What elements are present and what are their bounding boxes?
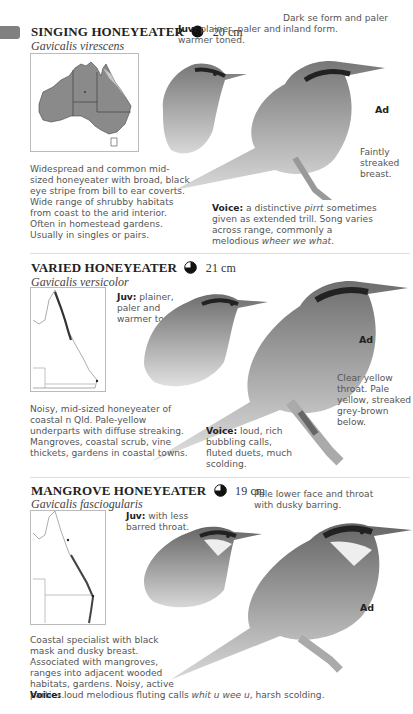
juv-label: Juv: [178,24,197,34]
voice-text: a distinctive [246,203,304,213]
voice-song: wheer we what [262,236,331,246]
scientific-name: Gavicalis virescens [31,39,124,54]
common-name: SINGING HONEYEATER [31,24,184,39]
voice-text: . [331,236,334,246]
distribution-map-queensland [30,510,106,625]
voice-note: Voice: a distinctive pirrt sometimes giv… [212,203,382,247]
juv-label: Juv: [117,292,136,302]
common-name: MANGROVE HONEYEATER [31,483,206,498]
queensland-map-icon [31,511,105,624]
voice-call: pirrt [304,203,323,213]
section-divider [30,477,410,478]
adult-label: Ad [375,104,389,115]
voice-text: , harsh scolding. [250,690,325,700]
voice-note: Voice: loud melodious fluting calls whit… [30,690,320,701]
voice-note: Voice: loud, rich bubbling calls, fluted… [206,426,296,470]
page-tab-marker [0,26,20,39]
voice-label: Voice: [206,426,237,436]
form-note: Dark se form and paler inland form. [283,13,403,35]
face-note: Pale lower face and throat with dusky ba… [254,489,394,511]
distribution-map-queensland [30,287,106,392]
voice-label: Voice: [212,203,243,213]
adult-label: Ad [359,334,373,345]
throat-note: Clear yellow throat. Pale yellow, streak… [337,373,413,428]
adult-label: Ad [360,602,374,613]
australia-map-icon [31,54,138,151]
breast-note: Faintly streaked breast. [360,147,410,180]
voice-label: Voice: [30,690,61,700]
species-description: Widespread and common mid-sized honeyeat… [30,164,190,241]
species-description: Noisy, mid-sized honeyeater of coastal n… [30,404,190,459]
distribution-map-australia [30,53,139,152]
voice-text: loud melodious fluting calls [64,690,192,700]
voice-call: whit u wee u [192,690,250,700]
mangrove-honeyeater-illustration [140,510,413,690]
queensland-map-icon [31,288,105,391]
status-three-quarter-circle-icon [214,484,227,497]
section-divider [30,253,410,254]
